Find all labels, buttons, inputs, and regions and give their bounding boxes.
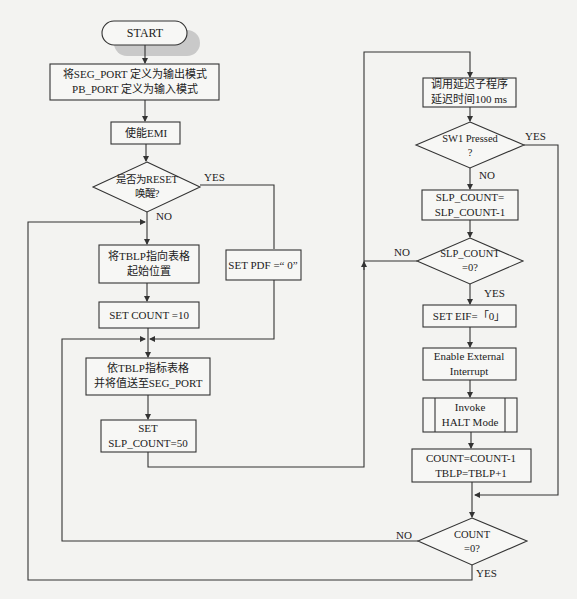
count-no-label: NO xyxy=(396,529,412,541)
set-slp-line1: SET xyxy=(108,421,188,436)
delay-line1: 调用延迟子程序 xyxy=(431,77,508,92)
enable-ext-int-line2: Interrupt xyxy=(434,364,505,379)
halt-line2: HALT Mode xyxy=(442,415,499,430)
set-count-label: SET COUNT =10 xyxy=(109,308,189,323)
send-seg-label: 依TBLP指标表格 并将值送至SEG_PORT xyxy=(94,361,203,391)
slp-no-label: NO xyxy=(394,246,410,258)
enable-ext-int-line1: Enable External xyxy=(434,349,505,364)
sw1-check-label: SW1 Pressed ? xyxy=(442,132,498,160)
enable-emi-label: 使能EMI xyxy=(125,126,167,141)
delay-line2: 延迟时间100 ms xyxy=(431,92,508,107)
slp-zero-line1: SLP_COUNT xyxy=(440,247,500,261)
set-tblp-line1: 将TBLP指向表格 xyxy=(108,249,190,264)
slp-yes-label: YES xyxy=(484,287,505,299)
count-zero-line2: =0? xyxy=(454,542,490,556)
sw1-check-line2: ? xyxy=(442,146,498,160)
set-slp-label: SET SLP_COUNT=50 xyxy=(108,421,188,451)
set-slp-line2: SLP_COUNT=50 xyxy=(108,436,188,451)
count-zero-line1: COUNT xyxy=(454,528,490,542)
update-count-label: COUNT=COUNT-1 TBLP=TBLP+1 xyxy=(426,451,516,481)
sw1-no-label: NO xyxy=(479,169,495,181)
halt-line1: Invoke xyxy=(442,400,499,415)
reset-no-label: NO xyxy=(156,210,172,222)
init-ports-label: 将SEG_PORT 定义为输出模式 PB_PORT 定义为输入模式 xyxy=(63,67,207,97)
halt-label: Invoke HALT Mode xyxy=(442,400,499,430)
set-tblp-line2: 起始位置 xyxy=(108,264,190,279)
reset-check-line2: 唤醒? xyxy=(116,187,178,201)
delay-label: 调用延迟子程序 延迟时间100 ms xyxy=(431,77,508,107)
dec-slp-line2: SLP_COUNT-1 xyxy=(435,205,506,220)
send-seg-line1: 依TBLP指标表格 xyxy=(94,361,203,376)
count-yes-label: YES xyxy=(476,567,497,579)
slp-zero-line2: =0? xyxy=(440,261,500,275)
set-pdf-label: SET PDF =“ 0” xyxy=(228,258,297,273)
sw1-check-line1: SW1 Pressed xyxy=(442,132,498,146)
update-count-line2: TBLP=TBLP+1 xyxy=(426,466,516,481)
reset-yes-label: YES xyxy=(204,171,225,183)
send-seg-line2: 并将值送至SEG_PORT xyxy=(94,376,203,391)
dec-slp-line1: SLP_COUNT= xyxy=(435,190,506,205)
count-zero-label: COUNT =0? xyxy=(454,528,490,556)
enable-ext-int-label: Enable External Interrupt xyxy=(434,349,505,379)
dec-slp-label: SLP_COUNT= SLP_COUNT-1 xyxy=(435,190,506,220)
reset-check-line1: 是否为RESET xyxy=(116,173,178,187)
edge-reset-yes xyxy=(200,185,274,249)
init-ports-line1: 将SEG_PORT 定义为输出模式 xyxy=(63,67,207,82)
sw1-yes-label: YES xyxy=(525,130,546,142)
set-eif-label: SET EIF=「0」 xyxy=(433,309,505,324)
update-count-line1: COUNT=COUNT-1 xyxy=(426,451,516,466)
slp-zero-label: SLP_COUNT =0? xyxy=(440,247,500,275)
reset-check-label: 是否为RESET 唤醒? xyxy=(116,173,178,201)
start-label: START xyxy=(127,26,163,41)
init-ports-line2: PB_PORT 定义为输入模式 xyxy=(63,82,207,97)
set-tblp-label: 将TBLP指向表格 起始位置 xyxy=(108,249,190,279)
